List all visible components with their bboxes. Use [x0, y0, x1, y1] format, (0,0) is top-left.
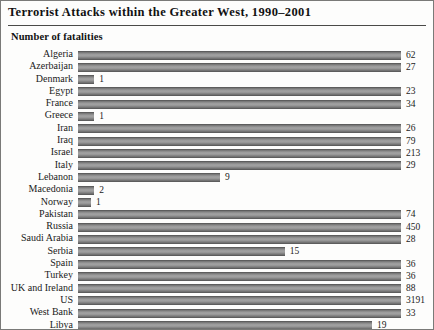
bar — [78, 124, 401, 133]
bar — [78, 149, 401, 158]
bar — [78, 223, 401, 232]
bar — [78, 235, 401, 244]
bar — [78, 51, 401, 60]
category-label: Turkey — [1, 269, 73, 281]
bar-value-label: 15 — [290, 246, 300, 257]
bar-value-label: 9 — [225, 172, 230, 183]
bar-value-label: 1 — [99, 111, 104, 122]
bar-value-label: 3191 — [406, 295, 425, 306]
bar — [78, 296, 401, 305]
chart-row: Libya19 — [1, 320, 434, 330]
bar — [78, 173, 220, 182]
category-label: Libya — [1, 319, 73, 330]
bar-value-label: 33 — [406, 308, 416, 319]
bar-value-label: 62 — [406, 50, 416, 61]
category-label: Algeria — [1, 48, 73, 60]
bar-track: 1 — [78, 75, 425, 84]
bar — [78, 309, 401, 318]
bar-value-label: 79 — [406, 136, 416, 147]
category-label: Pakistan — [1, 208, 73, 220]
bar-value-label: 213 — [406, 148, 420, 159]
category-label: Serbia — [1, 245, 73, 257]
bar-track: 36 — [78, 260, 425, 269]
bar-track: 34 — [78, 100, 425, 109]
bar-track: 1 — [78, 112, 425, 121]
bar — [78, 161, 401, 170]
bar-value-label: 1 — [96, 197, 101, 208]
bar — [78, 186, 94, 195]
category-label: Greece — [1, 109, 73, 121]
bar-value-label: 74 — [406, 209, 416, 220]
bar-value-label: 2 — [99, 185, 104, 196]
bar-track: 36 — [78, 272, 425, 281]
value-column-heading: Number of fatalities — [11, 31, 103, 42]
bar-track: 3191 — [78, 296, 425, 305]
bar-track: 9 — [78, 173, 425, 182]
bar-track: 213 — [78, 149, 425, 158]
category-label: Iran — [1, 122, 73, 134]
category-label: Lebanon — [1, 171, 73, 183]
category-label: Saudi Arabia — [1, 232, 73, 244]
category-label: Russia — [1, 220, 73, 232]
bar — [78, 272, 401, 281]
bar-value-label: 88 — [406, 283, 416, 294]
figure-title-bar: Terrorist Attacks within the Greater Wes… — [8, 5, 426, 26]
bar-track: 15 — [78, 247, 425, 256]
bar — [78, 284, 401, 293]
bar-track: 19 — [78, 321, 425, 330]
bar — [78, 87, 401, 96]
category-label: Spain — [1, 257, 73, 269]
bar-track: 33 — [78, 309, 425, 318]
bar — [78, 137, 401, 146]
category-label: Denmark — [1, 73, 73, 85]
category-label: Italy — [1, 159, 73, 171]
category-label: Norway — [1, 196, 73, 208]
bar-track: 450 — [78, 223, 425, 232]
bar — [78, 63, 401, 72]
bar-value-label: 34 — [406, 99, 416, 110]
bar-value-label: 450 — [406, 222, 420, 233]
bar-value-label: 26 — [406, 123, 416, 134]
category-label: Iraq — [1, 134, 73, 146]
category-label: Azerbaijan — [1, 60, 73, 72]
bar-track: 26 — [78, 124, 425, 133]
bar — [78, 321, 372, 330]
bar-track: 2 — [78, 186, 425, 195]
bar — [78, 247, 285, 256]
bar-value-label: 28 — [406, 234, 416, 245]
bar-track: 79 — [78, 137, 425, 146]
bar-track: 1 — [78, 198, 425, 207]
bar — [78, 260, 401, 269]
bar-value-label: 36 — [406, 259, 416, 270]
bar-value-label: 1 — [99, 74, 104, 85]
bar-value-label: 27 — [406, 62, 416, 73]
bar-track: 28 — [78, 235, 425, 244]
bar — [78, 112, 94, 121]
bar — [78, 100, 401, 109]
category-label: UK and Ireland — [1, 282, 73, 294]
bar-value-label: 29 — [406, 160, 416, 171]
bar-value-label: 19 — [377, 320, 387, 330]
bar-track: 74 — [78, 210, 425, 219]
bar-track: 27 — [78, 63, 425, 72]
chart-figure: Terrorist Attacks within the Greater Wes… — [0, 0, 434, 330]
category-label: West Bank — [1, 306, 73, 318]
category-label: US — [1, 294, 73, 306]
bar — [78, 75, 94, 84]
category-label: France — [1, 97, 73, 109]
bar-track: 88 — [78, 284, 425, 293]
bar-value-label: 23 — [406, 86, 416, 97]
page-title: Terrorist Attacks within the Greater Wes… — [8, 5, 426, 20]
category-label: Egypt — [1, 85, 73, 97]
bar-value-label: 36 — [406, 271, 416, 282]
category-label: Macedonia — [1, 183, 73, 195]
category-label: Israel — [1, 146, 73, 158]
bar — [78, 210, 401, 219]
bar-track: 62 — [78, 51, 425, 60]
bar-chart-body: Algeria62Azerbaijan27Denmark1Egypt23Fran… — [1, 49, 434, 325]
bar-track: 23 — [78, 87, 425, 96]
bar — [78, 198, 91, 207]
bar-track: 29 — [78, 161, 425, 170]
